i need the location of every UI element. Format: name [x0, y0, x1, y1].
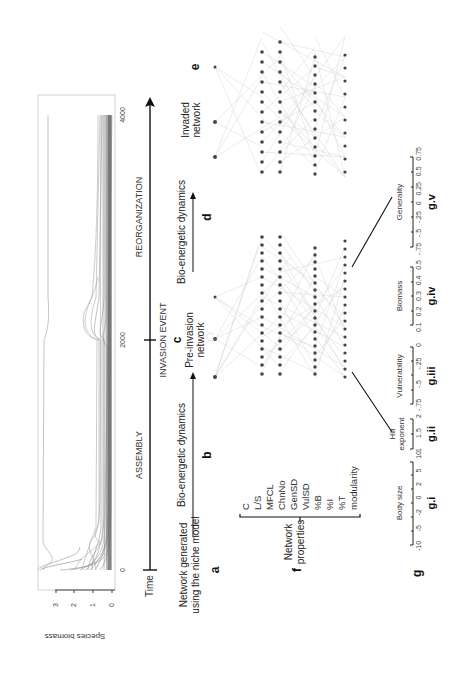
- g-ii-name: Hill exponent: [388, 418, 406, 451]
- g-i-label: g.i: [425, 497, 437, 510]
- g-iv-label: g.iv: [425, 287, 437, 306]
- g-iv-name: Biomass: [395, 281, 404, 312]
- g-v-label: g.v: [425, 194, 437, 210]
- g-i-ticks: -10 -5 -2 0 2 5 10: [415, 451, 422, 551]
- g-ii-ticks: 1 1.5 2: [415, 414, 422, 452]
- g-i-name: Body size: [395, 486, 404, 521]
- g-v-ticks: -.75 -.5 -.25 0 0.25 0.5 0.75: [415, 147, 422, 255]
- g-ii-label: g.ii: [425, 426, 437, 442]
- g-iii-label: g.iii: [425, 367, 437, 386]
- g-iii-ticks: -.75 -.5 -.25 0: [415, 343, 422, 411]
- g-v-name: Generality: [395, 184, 404, 220]
- g-scales: [0, 0, 458, 677]
- g-iv-ticks: 0.1 0.2 0.3 0.4 0.5: [415, 260, 422, 332]
- g-iii-name: Vulnerability: [395, 354, 404, 397]
- figure-canvas: 3 2 1 0 Species biomass 0 2000 4000 Time…: [0, 0, 458, 677]
